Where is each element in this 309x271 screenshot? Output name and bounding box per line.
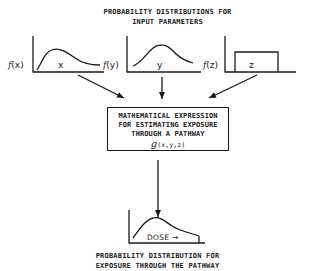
graph-z-rectangle (235, 52, 278, 72)
box-line1: MATHEMATICAL EXPRESSION (108, 112, 228, 121)
output-caption: PROBABILITY DISTRIBUTION FOR EXPOSURE TH… (3, 252, 309, 271)
dose-arrow-icon: → (172, 233, 179, 242)
fz-arg: (z) (206, 60, 218, 70)
arrow-x-to-box (78, 75, 124, 98)
graph-y-curve (133, 45, 193, 66)
variable-x: x (58, 60, 63, 70)
box-line3: THROUGH A PATHWAY (108, 130, 228, 139)
box-line2: FOR ESTIMATING EXPOSURE (108, 121, 228, 130)
label-fy: f(y) (103, 60, 119, 70)
label-fz: f(z) (203, 60, 218, 70)
dose-text: DOSE (147, 233, 169, 242)
fy-arg: (y) (106, 60, 118, 70)
graph-y (127, 36, 201, 73)
arrow-z-to-box (209, 75, 257, 98)
g-function-args: (x,y,z) (157, 141, 185, 149)
exposure-diagram: PROBABILITY DISTRIBUTIONS FOR INPUT PARA… (0, 0, 309, 271)
exposure-expression-box: MATHEMATICAL EXPRESSION FOR ESTIMATING E… (107, 107, 229, 151)
box-function: g(x,y,z) (108, 139, 228, 150)
variable-z: z (249, 60, 254, 70)
dose-axis-label: DOSE → (147, 233, 179, 242)
label-fx: f(x) (8, 60, 24, 70)
variable-y: y (157, 60, 162, 70)
graph-x (33, 36, 104, 73)
output-caption-line2: EXPOSURE THROUGH THE PATHWAY (3, 262, 309, 271)
graph-x-curve (37, 49, 100, 70)
fx-arg: (x) (11, 60, 23, 70)
output-caption-line1: PROBABILITY DISTRIBUTION FOR (3, 252, 309, 262)
graph-z (225, 36, 296, 73)
